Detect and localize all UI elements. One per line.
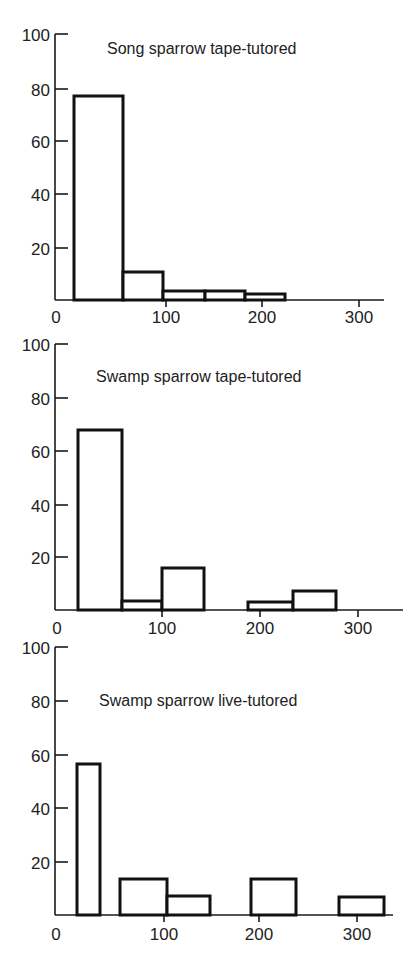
x-tick-label: 200 [245, 925, 273, 944]
histogram-figure: Song sparrow tape-tutored 100 80 60 40 2… [0, 0, 420, 964]
panel-title: Swamp sparrow tape-tutored [96, 368, 301, 385]
y-tick-label: 40 [31, 800, 50, 819]
histogram-bar [162, 568, 204, 610]
panel-swamp-sparrow-tape: Swamp sparrow tape-tutored 100 80 60 40 … [22, 336, 403, 638]
histogram-bar [163, 291, 205, 300]
y-tick-label: 100 [22, 639, 50, 658]
histogram-bar [167, 896, 210, 915]
x-tick-label: 100 [150, 925, 178, 944]
y-tick-label: 80 [31, 693, 50, 712]
x-tick-label: 0 [52, 619, 61, 638]
panel-title: Swamp sparrow live-tutored [99, 692, 297, 709]
y-tick-label: 60 [31, 133, 50, 152]
x-tick-label: 100 [152, 308, 180, 327]
histogram-bar [251, 879, 296, 915]
panel-song-sparrow-tape: Song sparrow tape-tutored 100 80 60 40 2… [22, 26, 384, 327]
panel-swamp-sparrow-live: Swamp sparrow live-tutored 100 80 60 40 … [22, 639, 393, 944]
y-tick-label: 80 [31, 390, 50, 409]
histogram-bar [77, 764, 100, 915]
y-tick-label: 20 [31, 549, 50, 568]
histogram-bar [339, 897, 384, 915]
histogram-bar [120, 879, 167, 915]
histogram-bar [248, 602, 293, 610]
x-tick-label: 100 [148, 619, 176, 638]
x-tick-label: 300 [343, 925, 371, 944]
histogram-bar [205, 291, 245, 300]
y-tick-label: 60 [31, 747, 50, 766]
y-tick-label: 40 [31, 186, 50, 205]
y-tick-label: 100 [22, 336, 50, 355]
y-tick-label: 80 [31, 81, 50, 100]
x-tick-label: 0 [51, 925, 60, 944]
y-tick-label: 60 [31, 443, 50, 462]
histogram-bar [78, 430, 122, 610]
y-tick-label: 20 [31, 854, 50, 873]
histogram-bar [74, 96, 123, 300]
x-tick-label: 300 [344, 619, 372, 638]
y-tick-label: 40 [31, 497, 50, 516]
histogram-bar [293, 591, 336, 610]
x-tick-label: 0 [51, 308, 60, 327]
histogram-bar [123, 272, 163, 300]
histogram-bar [245, 294, 285, 300]
histogram-bar [122, 601, 162, 610]
x-tick-label: 200 [248, 308, 276, 327]
x-tick-label: 200 [246, 619, 274, 638]
panel-title: Song sparrow tape-tutored [107, 40, 296, 57]
y-tick-label: 20 [31, 240, 50, 259]
x-tick-label: 300 [345, 308, 373, 327]
y-tick-label: 100 [22, 26, 50, 45]
